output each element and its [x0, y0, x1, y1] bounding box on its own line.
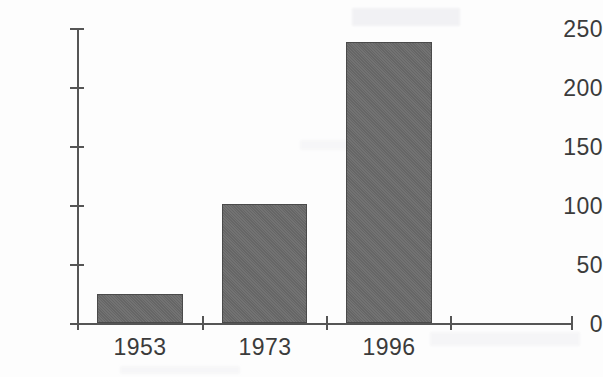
y-axis-label-50: 50: [541, 254, 603, 277]
bar-1996: [346, 42, 432, 323]
x-axis-tick-3: [450, 316, 452, 330]
x-axis-tick-1: [202, 316, 204, 330]
x-axis-line: [77, 323, 573, 325]
x-axis-label-1953: 1953: [90, 336, 190, 359]
x-axis-label-1996: 1996: [339, 336, 439, 359]
bar-1953: [97, 294, 183, 324]
y-axis-tick-50: [70, 264, 84, 266]
bar-1973: [222, 204, 307, 323]
y-axis-tick-100: [70, 205, 84, 207]
bar-chart-figure: 250 200 150 100 50 0 1953 1973 1996: [0, 0, 603, 377]
y-axis-line: [77, 28, 79, 325]
x-axis-tick-2: [326, 316, 328, 330]
y-axis-tick-150: [70, 146, 84, 148]
y-axis-label-100: 100: [541, 195, 603, 218]
y-axis-label-150: 150: [541, 136, 603, 159]
y-axis-tick-250: [70, 28, 84, 30]
y-axis-tick-200: [70, 87, 84, 89]
x-axis-tick-4: [571, 316, 573, 330]
x-axis-label-1973: 1973: [215, 336, 315, 359]
y-axis-label-200: 200: [541, 77, 603, 100]
plot-area: 250 200 150 100 50 0 1953 1973 1996: [0, 0, 603, 377]
y-axis-label-250: 250: [541, 18, 603, 41]
x-axis-tick-0: [77, 316, 79, 330]
